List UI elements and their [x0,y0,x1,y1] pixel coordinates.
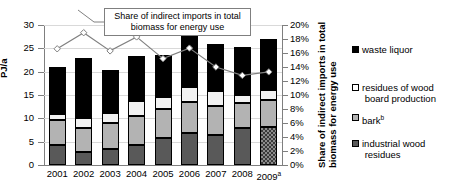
bar-segment [128,145,145,165]
bar-stack [128,25,145,165]
left-axis-tick [38,118,44,119]
bar-segment [234,103,251,128]
bar-stack [49,25,66,165]
left-axis-tick-label: 25 [6,43,34,53]
bar-segment [155,97,172,109]
bar-segment [102,70,119,112]
right-axis-tick-label: 0% [290,160,304,170]
legend-item: industrial wood residues [352,138,425,160]
left-axis-tick [38,48,44,49]
bar-segment [75,58,92,118]
bar-segment [102,123,119,148]
bar-segment [102,149,119,165]
callout-line1: Share of indirect imports in [114,11,221,21]
bar-segment [75,128,92,152]
right-axis-tick [282,53,288,54]
right-axis-tick [282,25,288,26]
bar-segment [75,152,92,165]
right-axis-tick [282,123,288,124]
bar-stack [207,25,224,165]
left-axis-tick-label: 5 [6,137,34,147]
legend-item: waste liquor [352,44,413,55]
right-axis-tick-label: 14% [290,62,309,72]
legend-swatch-icon [352,140,359,147]
bar-segment [128,56,145,101]
chart-root: 051015202530 0%2%4%6%8%10%12%14%16%18%20… [0,0,449,189]
right-axis-title-line2: biomass for energy use [327,61,338,168]
left-axis-tick [38,72,44,73]
right-axis-tick-label: 10% [290,90,309,100]
left-axis-tick-label: 20 [6,67,34,77]
bar-segment [102,113,119,124]
right-axis-title-line1: Share of indirect imports in total [316,22,327,168]
legend-swatch-icon [352,84,359,91]
bar-segment [49,120,66,145]
right-axis-tick [282,39,288,40]
bar-segment [49,114,66,121]
bar-stack [181,25,198,165]
bar-segment [128,101,145,116]
bar-segment [260,127,277,165]
legend-swatch-icon [352,114,359,121]
bar-stack [75,25,92,165]
right-axis-tick [282,165,288,166]
bar-segment [234,128,251,165]
left-axis-tick [38,25,44,26]
legend-label: residues of wood board production [362,82,436,104]
bar-stack [260,25,277,165]
right-axis-tick-label: 18% [290,34,309,44]
right-axis-tick [282,81,288,82]
bar-segment [181,34,198,86]
bar-segment [155,55,172,97]
legend-label-superscript: b [380,114,384,121]
bar-segment [128,116,145,145]
bar-segment [155,109,172,138]
bar-segment [155,138,172,165]
bar-segment [49,67,66,114]
bar-segment [260,39,277,90]
x-axis-label-superscript: a [278,170,282,177]
bar-segment [181,87,198,102]
bar-stack [102,25,119,165]
bar-segment [181,102,198,134]
right-axis-tick-label: 4% [290,132,304,142]
bar-segment [207,135,224,165]
legend-label: barkb [362,112,384,126]
right-axis-tick [282,109,288,110]
right-axis-tick-label: 16% [290,48,309,58]
bar-segment [260,100,277,127]
right-axis-tick [282,151,288,152]
right-axis-tick [282,137,288,138]
right-axis-tick-label: 20% [290,20,309,30]
left-axis-tick-label: 15 [6,90,34,100]
bar-stack [155,25,172,165]
bar-segment [234,47,251,96]
right-axis-title: Share of indirect imports in total bioma… [316,18,338,168]
bar-segment [207,91,224,105]
x-axis-label: 2009a [249,169,289,182]
bar-segment [207,44,224,92]
right-axis-tick [282,67,288,68]
right-axis-tick [282,95,288,96]
bar-segment [234,95,251,102]
bar-stack [234,25,251,165]
bar-segment [181,133,198,165]
legend-item: residues of wood board production [352,82,436,104]
x-axis-line [44,165,283,166]
bar-segment [49,145,66,165]
left-axis-title: PJ/a [0,18,9,78]
right-axis-tick-label: 2% [290,146,304,156]
legend-label: industrial wood residues [362,138,425,160]
bar-segment [75,118,92,128]
legend-label: waste liquor [362,44,413,55]
left-axis-tick-label: 0 [6,160,34,170]
right-axis-tick-label: 6% [290,118,304,128]
right-axis-tick-label: 12% [290,76,309,86]
bar-segment [260,90,277,99]
left-axis-tick [38,95,44,96]
left-axis-tick-label: 10 [6,113,34,123]
bar-segment [207,106,224,135]
left-axis-tick-label: 30 [6,20,34,30]
left-axis-tick [38,142,44,143]
annotation-callout: Share of indirect imports in total bioma… [104,8,251,36]
